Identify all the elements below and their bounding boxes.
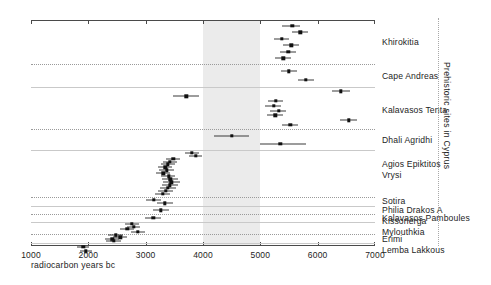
data-point (112, 239, 115, 242)
data-point (272, 104, 275, 107)
data-point (279, 142, 282, 145)
site-label-lemba-lakkous: Lemba Lakkous (382, 245, 445, 256)
data-point (304, 78, 307, 81)
data-point (171, 157, 174, 160)
data-point (185, 95, 188, 98)
data-point (151, 216, 154, 219)
data-point (161, 192, 164, 195)
x-tick-label-7000: 7000 (365, 250, 385, 260)
x-tick-6000 (318, 20, 319, 24)
site-label-line: Vrysi (382, 170, 402, 180)
site-label-cape-andreas: Cape Andreas (382, 71, 438, 82)
data-point (280, 37, 283, 40)
x-tick-label-1000: 1000 (21, 250, 41, 260)
x-axis-caption: radiocarbon years bc (31, 260, 115, 270)
site-label-line: Erimi (382, 234, 402, 244)
data-point (290, 44, 293, 47)
group-separator (31, 150, 375, 151)
group-separator (31, 234, 375, 235)
site-label-line: Agios Epiktitos (382, 159, 441, 169)
site-label-agios-epiktitos-vrysi: Agios EpiktitosVrysi (382, 159, 441, 181)
data-point (287, 50, 290, 53)
data-point (81, 245, 84, 248)
chart-side-title: Prehistoric sites in Cyprus (442, 62, 452, 169)
site-label-dhali-agridhi: Dhali Agridhi (382, 135, 432, 146)
data-point (165, 169, 168, 172)
x-tick-label-3000: 3000 (136, 250, 156, 260)
x-tick-1000 (31, 20, 32, 24)
x-tick-2000 (88, 20, 89, 24)
data-point (194, 154, 197, 157)
x-tick-5000 (260, 20, 261, 24)
data-point (159, 209, 162, 212)
group-separator (31, 129, 375, 130)
site-label-line: Lemba Lakkous (382, 245, 445, 255)
site-label-line: Dhali Agridhi (382, 135, 432, 145)
group-separator (31, 214, 375, 215)
data-point (339, 90, 342, 93)
data-point (230, 134, 233, 137)
side-title-rule (438, 18, 439, 246)
radiocarbon-date-chart: KhirokitiaCape AndreasKalavasos TentaDha… (0, 0, 491, 285)
data-point (152, 198, 155, 201)
data-point (287, 70, 290, 73)
site-label-line: Cape Andreas (382, 71, 438, 81)
shaded-band (203, 20, 260, 246)
x-tick-label-6000: 6000 (308, 250, 328, 260)
data-point (126, 227, 129, 230)
x-tick-3000 (146, 20, 147, 24)
x-tick-label-5000: 5000 (250, 250, 270, 260)
x-tick-label-4000: 4000 (193, 250, 213, 260)
x-tick-4000 (203, 20, 204, 24)
group-separator (31, 243, 375, 244)
group-separator (31, 206, 375, 207)
data-point (136, 230, 139, 233)
site-label-line: Khirokitia (382, 37, 419, 47)
data-point (274, 114, 277, 117)
data-point (162, 172, 165, 175)
data-point (277, 109, 280, 112)
group-separator (31, 87, 375, 88)
data-point (274, 99, 277, 102)
group-separator (31, 197, 375, 198)
x-tick-7000 (374, 20, 375, 24)
site-label-khirokitia: Khirokitia (382, 37, 419, 48)
data-point (163, 202, 166, 205)
data-point (291, 24, 294, 27)
group-separator (31, 64, 375, 65)
error-bar (260, 143, 306, 144)
plot-area (31, 20, 375, 246)
data-point (282, 57, 285, 60)
data-point (347, 119, 350, 122)
site-label-erimi: Erimi (382, 234, 402, 245)
group-separator (31, 222, 375, 223)
site-label-line: Kissonerga (382, 216, 427, 226)
data-point (288, 123, 291, 126)
data-point (299, 30, 302, 33)
x-tick-label-2000: 2000 (78, 250, 98, 260)
